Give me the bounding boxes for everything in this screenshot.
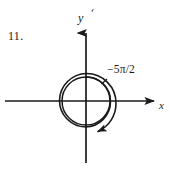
problem-number-label: 11.	[8, 30, 23, 42]
rotation-spiral-arc	[60, 74, 117, 132]
angle-measure-label: −5π/2	[107, 64, 135, 76]
x-axis-label: x	[159, 100, 164, 111]
angle-diagram-svg	[0, 0, 170, 170]
y-axis-label: y	[78, 12, 83, 24]
figure-container: 11. y ‘ x −5π/2	[0, 0, 170, 170]
